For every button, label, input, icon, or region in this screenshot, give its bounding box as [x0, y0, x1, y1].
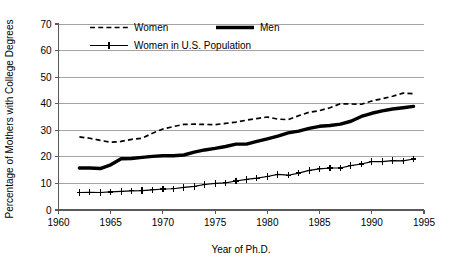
y-tick-label-60: 60	[40, 45, 52, 56]
y-axis-tick-labels: 010203040506070	[40, 19, 52, 216]
tick-marks	[55, 24, 424, 214]
legend-item-women-in-us-population: Women in U.S. Population	[90, 40, 251, 51]
series-line-0	[79, 93, 413, 142]
y-tick-label-10: 10	[40, 178, 52, 189]
x-tick-label-1960: 1960	[47, 217, 70, 228]
line-chart: 010203040506070 196019651970197519801985…	[0, 0, 454, 267]
x-axis-title: Year of Ph.D.	[211, 244, 270, 255]
y-tick-label-70: 70	[40, 19, 52, 30]
y-tick-label-20: 20	[40, 151, 52, 162]
data-series	[77, 93, 416, 196]
legend-label-women: Women	[134, 22, 168, 33]
x-tick-label-1990: 1990	[361, 217, 384, 228]
x-axis-tick-labels: 19601965197019751980198519901995	[47, 217, 435, 228]
y-axis-title: Percentage of Mothers with College Degre…	[4, 20, 15, 219]
x-tick-label-1975: 1975	[204, 217, 227, 228]
chart-legend: WomenMenWomen in U.S. Population	[90, 22, 279, 51]
series-markers-2	[77, 156, 416, 196]
y-tick-label-50: 50	[40, 72, 52, 83]
legend-label-women-in-us-population: Women in U.S. Population	[134, 40, 251, 51]
series-line-1	[79, 106, 413, 168]
axes	[59, 24, 425, 210]
x-tick-label-1970: 1970	[152, 217, 175, 228]
chart-container: 010203040506070 196019651970197519801985…	[0, 0, 454, 267]
legend-label-men: Men	[260, 22, 279, 33]
x-tick-label-1980: 1980	[256, 217, 279, 228]
y-tick-label-0: 0	[46, 205, 52, 216]
x-tick-label-1985: 1985	[308, 217, 331, 228]
y-tick-label-40: 40	[40, 98, 52, 109]
x-tick-label-1965: 1965	[100, 217, 123, 228]
y-tick-label-30: 30	[40, 125, 52, 136]
x-tick-label-1995: 1995	[413, 217, 436, 228]
